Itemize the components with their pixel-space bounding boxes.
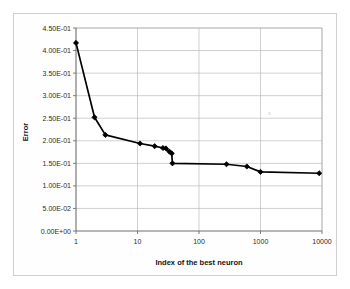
y-tick-label: 4.00E-01 — [43, 47, 72, 54]
x-axis-ticks: 110100100010000 — [74, 231, 332, 245]
y-tick-label: 2.00E-01 — [43, 137, 72, 144]
y-tick-label: 3.00E-01 — [43, 92, 72, 99]
chart-figure: 0.00E+005.00E-021.00E-011.50E-012.00E-01… — [0, 0, 350, 289]
x-tick-label: 100 — [193, 238, 205, 245]
y-tick-label: 3.50E-01 — [43, 70, 72, 77]
error-vs-neuron-index-chart: 0.00E+005.00E-021.00E-011.50E-012.00E-01… — [0, 0, 350, 289]
x-tick-label: 1 — [74, 238, 78, 245]
x-tick-label: 10000 — [312, 238, 332, 245]
y-tick-label: 1.00E-01 — [43, 182, 72, 189]
y-tick-label: 2.50E-01 — [43, 115, 72, 122]
y-axis-title: Error — [21, 123, 30, 141]
x-tick-label: 10 — [134, 238, 142, 245]
y-tick-label: 1.50E-01 — [43, 160, 72, 167]
x-tick-label: 1000 — [253, 238, 269, 245]
y-axis-ticks: 0.00E+005.00E-021.00E-011.50E-012.00E-01… — [41, 25, 76, 235]
y-tick-label: 5.00E-02 — [43, 205, 72, 212]
x-axis-title: Index of the best neuron — [155, 258, 243, 267]
scan-speck — [268, 112, 271, 115]
y-tick-label: 0.00E+00 — [41, 228, 71, 235]
y-tick-label: 4.50E-01 — [43, 25, 72, 32]
